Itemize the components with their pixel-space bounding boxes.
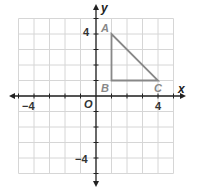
y-axis-label: y: [100, 1, 109, 15]
y-tick-label-4: 4: [83, 26, 90, 38]
x-tick-label-4: 4: [155, 100, 162, 112]
triangle-abc: [112, 34, 159, 81]
vertex-label-b: B: [101, 82, 109, 94]
vertex-label-c: C: [154, 82, 163, 94]
axes: [9, 4, 186, 187]
y-tick-label-neg4: −4: [75, 153, 88, 165]
labels: x y O −4 4 4 −4 A B C: [22, 1, 186, 165]
y-axis-up-arrow-icon: [93, 4, 99, 10]
vertex-label-a: A: [100, 22, 109, 34]
x-tick-label-neg4: −4: [22, 100, 35, 112]
y-axis-down-arrow-icon: [93, 181, 99, 187]
x-axis-left-arrow-icon: [9, 93, 15, 99]
triangle-shape: [112, 34, 159, 81]
coordinate-plane: x y O −4 4 4 −4 A B C: [0, 0, 197, 189]
origin-label: O: [84, 98, 93, 110]
x-axis-label: x: [177, 82, 186, 96]
